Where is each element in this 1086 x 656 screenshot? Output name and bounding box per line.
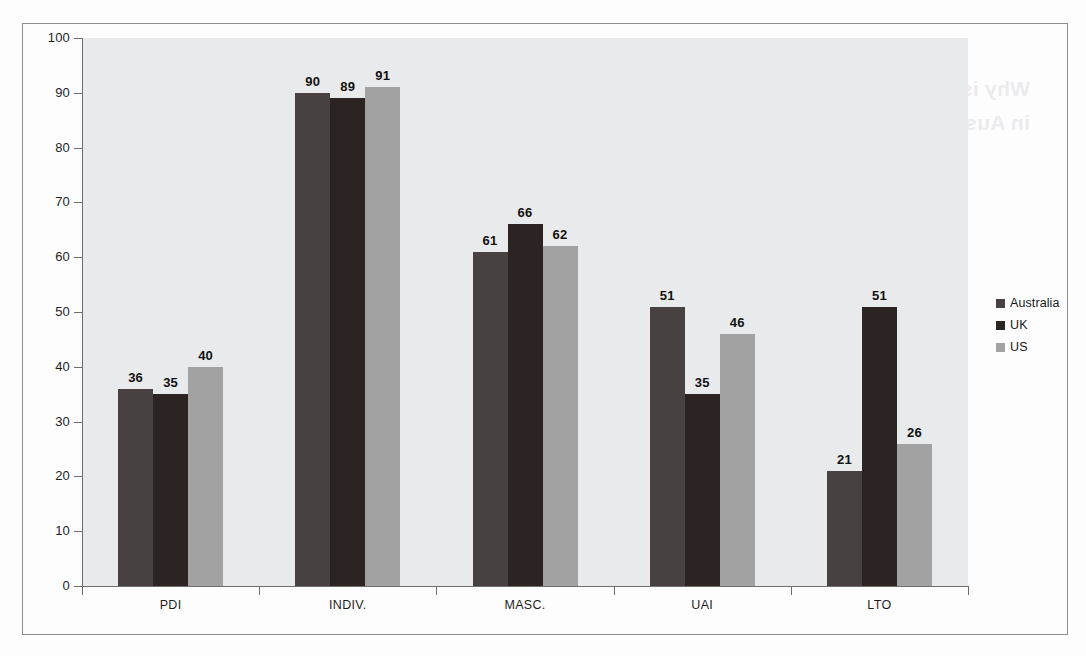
bar	[295, 93, 330, 586]
y-axis-tick-mark	[74, 93, 82, 94]
bar-group-item: 40	[188, 38, 223, 586]
bar-value-label: 26	[907, 425, 922, 440]
y-axis-tick-mark	[74, 531, 82, 532]
chart-legend: AustraliaUKUS	[996, 292, 1076, 358]
y-axis-tick-mark	[74, 257, 82, 258]
y-axis-tick-label: 40	[14, 359, 70, 374]
bar-group-item: 51	[862, 38, 897, 586]
bar-group-item: 26	[897, 38, 932, 586]
bar-value-label: 35	[695, 375, 710, 390]
legend-label: Australia	[1010, 296, 1060, 310]
y-axis-tick-label: 70	[14, 194, 70, 209]
bar	[827, 471, 862, 586]
bar-value-label: 51	[660, 288, 675, 303]
x-axis-category-label: PDI	[82, 598, 259, 612]
bar	[543, 246, 578, 586]
bar-value-label: 89	[340, 79, 355, 94]
y-axis-tick-mark	[74, 422, 82, 423]
y-axis-tick-label: 80	[14, 140, 70, 155]
bar-value-label: 46	[730, 315, 745, 330]
x-axis-category-label: MASC.	[436, 598, 613, 612]
bar-group-item: 90	[295, 38, 330, 586]
bar	[153, 394, 188, 586]
y-axis-tick-label: 10	[14, 523, 70, 538]
bar-group-item: 36	[118, 38, 153, 586]
bar	[650, 307, 685, 586]
legend-item[interactable]: Australia	[996, 292, 1076, 314]
bar-group-item: 35	[153, 38, 188, 586]
x-axis-tick-mark	[259, 586, 260, 595]
legend-label: UK	[1010, 318, 1028, 332]
x-axis-tick-mark	[82, 586, 83, 595]
y-axis-tick-mark	[74, 476, 82, 477]
bar	[685, 394, 720, 586]
legend-item[interactable]: UK	[996, 314, 1076, 336]
scanned-page: Why is seeing your work is own expectati…	[0, 0, 1086, 656]
bar-group-item: 66	[508, 38, 543, 586]
bar-value-label: 62	[553, 227, 568, 242]
bar-value-label: 21	[837, 452, 852, 467]
legend-swatch-icon	[996, 321, 1005, 330]
x-axis-category-label: UAI	[614, 598, 791, 612]
bar	[720, 334, 755, 586]
x-axis-tick-mark	[968, 586, 969, 595]
y-axis-labels: 0102030405060708090100	[8, 38, 70, 586]
y-axis-tick-label: 60	[14, 249, 70, 264]
x-axis-category-label: LTO	[791, 598, 968, 612]
legend-swatch-icon	[996, 343, 1005, 352]
bar-group-item: 91	[365, 38, 400, 586]
bar	[365, 87, 400, 586]
bar-value-label: 66	[518, 205, 533, 220]
y-axis-tick-label: 0	[14, 578, 70, 593]
y-axis-tick-mark	[74, 367, 82, 368]
bar	[188, 367, 223, 586]
bar-group-item: 46	[720, 38, 755, 586]
y-axis-tick-label: 30	[14, 414, 70, 429]
bar	[862, 307, 897, 586]
legend-label: US	[1010, 340, 1028, 354]
bar-value-label: 36	[128, 370, 143, 385]
bars-layer: 363540908991616662513546215126	[82, 38, 968, 586]
x-axis-tick-mark	[436, 586, 437, 595]
y-axis-tick-label: 90	[14, 85, 70, 100]
x-axis-category-label: INDIV.	[259, 598, 436, 612]
bar-value-label: 90	[305, 74, 320, 89]
bar-group-item: 21	[827, 38, 862, 586]
y-axis-tick-label: 100	[14, 30, 70, 45]
bar-value-label: 51	[872, 288, 887, 303]
bar-value-label: 40	[198, 348, 213, 363]
bar-value-label: 91	[375, 68, 390, 83]
y-axis-tick-mark	[74, 148, 82, 149]
x-axis-tick-mark	[614, 586, 615, 595]
bar	[330, 98, 365, 586]
y-axis-tick-label: 20	[14, 468, 70, 483]
bar	[897, 444, 932, 586]
bar-group-item: 35	[685, 38, 720, 586]
legend-swatch-icon	[996, 299, 1005, 308]
y-axis-tick-mark	[74, 38, 82, 39]
x-axis-tick-mark	[791, 586, 792, 595]
bar	[473, 252, 508, 586]
legend-item[interactable]: US	[996, 336, 1076, 358]
bar-value-label: 61	[483, 233, 498, 248]
bar	[118, 389, 153, 586]
bar-group-item: 51	[650, 38, 685, 586]
bar-group-item: 89	[330, 38, 365, 586]
y-axis-tick-label: 50	[14, 304, 70, 319]
y-axis-tick-mark	[74, 312, 82, 313]
y-axis-tick-mark	[74, 202, 82, 203]
bar-group-item: 62	[543, 38, 578, 586]
bar	[508, 224, 543, 586]
y-axis-tick-mark	[74, 586, 82, 587]
bar-value-label: 35	[163, 375, 178, 390]
x-axis-line	[82, 586, 968, 587]
bar-group-item: 61	[473, 38, 508, 586]
